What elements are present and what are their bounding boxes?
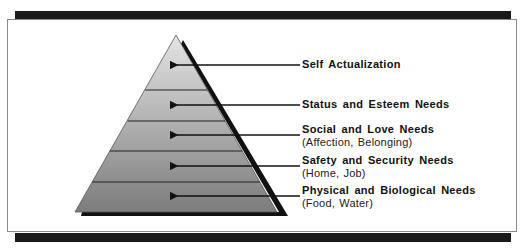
- pyramid-body: [75, 35, 277, 212]
- pyramid-graphic: [0, 0, 526, 248]
- level-label-self-actualization: Self Actualization: [302, 58, 401, 71]
- level-title: Social and Love Needs: [302, 123, 434, 136]
- level-subtitle: (Affection, Belonging): [302, 136, 434, 149]
- level-label-social-love: Social and Love Needs (Affection, Belong…: [302, 123, 434, 149]
- level-title: Physical and Biological Needs: [302, 184, 476, 197]
- level-title: Self Actualization: [302, 58, 401, 71]
- level-subtitle: (Food, Water): [302, 197, 476, 210]
- level-label-status-esteem: Status and Esteem Needs: [302, 98, 449, 111]
- level-subtitle: (Home, Job): [302, 167, 454, 180]
- level-title: Safety and Security Needs: [302, 154, 454, 167]
- level-label-safety-security: Safety and Security Needs (Home, Job): [302, 154, 454, 180]
- level-title: Status and Esteem Needs: [302, 98, 449, 111]
- level-label-physical-biological: Physical and Biological Needs (Food, Wat…: [302, 184, 476, 210]
